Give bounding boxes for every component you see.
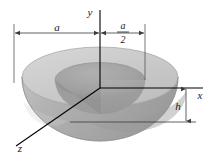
hemisphere-figure: y x z a a 2 xyxy=(0,0,213,156)
x-axis-label: x xyxy=(197,89,203,101)
inner-radius-denominator: 2 xyxy=(121,34,126,45)
outer-radius-label: a xyxy=(54,21,60,33)
figure-canvas: y x z a a 2 xyxy=(0,0,213,156)
hemispherical-bowl xyxy=(22,47,186,141)
depth-label: h xyxy=(175,100,181,112)
inner-radius-numerator: a xyxy=(121,20,126,31)
z-axis-label: z xyxy=(17,142,23,154)
y-axis-label: y xyxy=(87,6,93,18)
